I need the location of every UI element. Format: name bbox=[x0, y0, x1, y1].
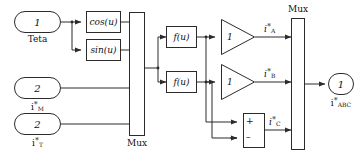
ia-sub: A bbox=[271, 27, 275, 34]
fu-block-top-label: f(u) bbox=[173, 32, 189, 42]
input-port-im-number: 2 bbox=[34, 83, 40, 94]
it-sub: T bbox=[39, 141, 43, 148]
sin-block-label: sin(u) bbox=[90, 45, 116, 55]
output-port-iabc-label: i*ABC bbox=[322, 96, 359, 108]
input-port-im-label: i*M bbox=[14, 100, 61, 112]
input-port-it[interactable]: 2 bbox=[14, 113, 61, 135]
sin-block[interactable]: sin(u) bbox=[86, 39, 121, 61]
cos-block-label: cos(u) bbox=[90, 17, 118, 27]
input-port-teta-number: 1 bbox=[34, 17, 40, 28]
fu-block-top[interactable]: f(u) bbox=[166, 26, 197, 48]
mux-right[interactable] bbox=[291, 18, 305, 150]
gain-block-a-value: 1 bbox=[227, 33, 233, 42]
signal-label-ib: i*B bbox=[264, 67, 275, 79]
gain-block-b-value: 1 bbox=[227, 78, 233, 87]
output-port-iabc[interactable]: 1 bbox=[328, 73, 354, 95]
input-port-it-label: i*T bbox=[14, 136, 61, 148]
mux-left[interactable] bbox=[129, 12, 145, 136]
signal-label-ic: i*C bbox=[269, 115, 280, 127]
gain-block-b[interactable]: 1 bbox=[221, 64, 255, 100]
gain-block-a[interactable]: 1 bbox=[221, 19, 255, 55]
input-port-im[interactable]: 2 bbox=[14, 77, 61, 99]
mux-right-label: Mux bbox=[276, 4, 320, 14]
cos-block[interactable]: cos(u) bbox=[86, 11, 121, 33]
im-sub: M bbox=[38, 105, 44, 112]
fu-block-bottom[interactable]: f(u) bbox=[166, 71, 197, 93]
mux-left-label: Mux bbox=[115, 138, 159, 148]
input-port-teta-label: Teta bbox=[14, 34, 61, 44]
input-port-teta[interactable]: 1 bbox=[14, 11, 61, 33]
signal-label-ia: i*A bbox=[264, 22, 275, 34]
sum-block-plus-sign: + bbox=[246, 117, 254, 126]
ib-sub: B bbox=[271, 72, 275, 79]
fu-block-bottom-label: f(u) bbox=[173, 77, 189, 87]
ic-sub: C bbox=[276, 120, 281, 127]
input-port-it-number: 2 bbox=[34, 119, 40, 130]
iabc-sub: ABC bbox=[338, 101, 351, 108]
block-diagram-canvas: 1 Teta 2 i*M 2 i*T cos(u) sin(u) Mux f(u… bbox=[0, 0, 359, 165]
output-port-iabc-number: 1 bbox=[338, 79, 344, 90]
sum-block-minus-sign: – bbox=[246, 133, 251, 142]
